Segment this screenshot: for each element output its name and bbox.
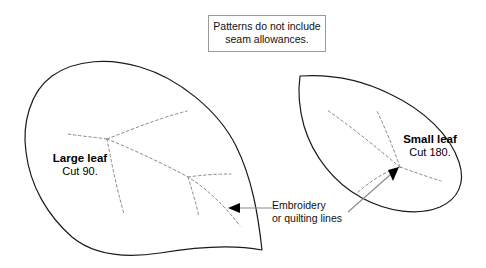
- note-line-2: seam allowances.: [212, 33, 322, 46]
- small-leaf-label: Small leaf Cut 180.: [392, 133, 468, 159]
- callout-line-1: Embroidery: [272, 199, 362, 212]
- callout-line-2: or quilting lines: [272, 212, 362, 225]
- note-line-1: Patterns do not include: [212, 20, 322, 33]
- seam-allowance-note: Patterns do not include seam allowances.: [208, 15, 326, 52]
- embroidery-lines-callout: Embroidery or quilting lines: [272, 199, 362, 225]
- pattern-diagram: Patterns do not include seam allowances.…: [0, 0, 486, 268]
- large-leaf-name: Large leaf: [37, 152, 123, 165]
- large-leaf-cut-count: Cut 90.: [37, 165, 123, 178]
- large-leaf-label: Large leaf Cut 90.: [37, 152, 123, 178]
- small-leaf-cut-count: Cut 180.: [392, 146, 468, 159]
- small-leaf-name: Small leaf: [392, 133, 468, 146]
